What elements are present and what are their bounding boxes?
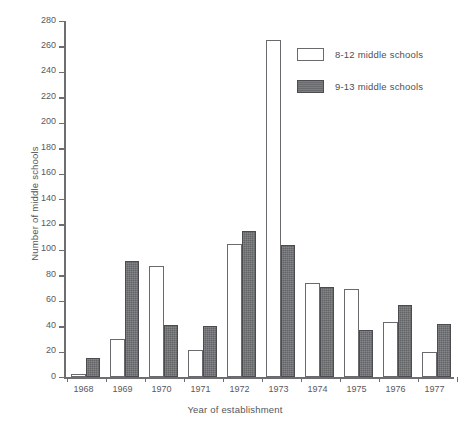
x-axis-label-1974: 1974 <box>298 384 337 394</box>
y-tick-160: 160 <box>59 174 64 175</box>
bar-1971-series2 <box>203 326 218 377</box>
bar-1976-series1 <box>383 322 398 377</box>
x-axis-label-1971: 1971 <box>181 384 220 394</box>
y-tick-220: 220 <box>59 97 64 98</box>
legend-label-8-12: 8-12 middle schools <box>335 49 423 60</box>
bar-1969-series2 <box>125 261 140 377</box>
y-tick-260: 260 <box>59 46 64 47</box>
y-tick-200: 200 <box>59 123 64 124</box>
bar-1973-series1 <box>266 40 281 377</box>
x-tick-1973 <box>262 377 263 382</box>
bar-1969-series1 <box>110 339 125 377</box>
legend-item-8-12: 8-12 middle schools <box>297 44 423 64</box>
y-tick-120: 120 <box>59 224 64 225</box>
x-tick-1977 <box>418 377 419 382</box>
y-axis-title: Number of middle schools <box>29 114 40 294</box>
y-tick-label-200: 200 <box>41 116 56 126</box>
x-tick-1976 <box>379 377 380 382</box>
bar-1970-series2 <box>164 325 179 377</box>
y-tick-label-20: 20 <box>46 345 56 355</box>
y-tick-40: 40 <box>59 326 64 327</box>
bar-1968-series1 <box>71 374 86 377</box>
y-tick-label-260: 260 <box>41 40 56 50</box>
bar-group-1969 <box>110 21 139 377</box>
y-tick-label-40: 40 <box>46 320 56 330</box>
y-tick-280: 280 <box>59 21 64 22</box>
y-tick-label-100: 100 <box>41 243 56 253</box>
x-tick-1975 <box>340 377 341 382</box>
x-tick-1971 <box>184 377 185 382</box>
x-tick-end <box>457 377 458 382</box>
x-axis-title: Year of establishment <box>0 404 470 415</box>
bar-group-1977 <box>422 21 451 377</box>
x-axis-label-1975: 1975 <box>337 384 376 394</box>
y-tick-label-60: 60 <box>46 294 56 304</box>
x-axis-label-1973: 1973 <box>259 384 298 394</box>
y-tick-label-280: 280 <box>41 15 56 25</box>
x-axis-label-1969: 1969 <box>103 384 142 394</box>
legend-swatch-light-icon <box>297 48 324 61</box>
x-axis-line <box>64 377 454 379</box>
bar-1977-series2 <box>437 324 452 377</box>
bar-group-1970 <box>149 21 178 377</box>
y-tick-label-160: 160 <box>41 167 56 177</box>
bar-group-1968 <box>71 21 100 377</box>
bar-group-1973 <box>266 21 295 377</box>
y-tick-label-120: 120 <box>41 218 56 228</box>
y-tick-label-80: 80 <box>46 269 56 279</box>
bar-1971-series1 <box>188 350 203 377</box>
y-tick-180: 180 <box>59 148 64 149</box>
y-tick-20: 20 <box>59 352 64 353</box>
bar-1974-series1 <box>305 283 320 377</box>
x-tick-1972 <box>223 377 224 382</box>
x-axis-label-1976: 1976 <box>376 384 415 394</box>
y-axis-line <box>64 21 66 378</box>
y-tick-label-140: 140 <box>41 193 56 203</box>
bar-group-1971 <box>188 21 217 377</box>
legend: 8-12 middle schools 9-13 middle schools <box>297 44 423 108</box>
x-axis-label-1970: 1970 <box>142 384 181 394</box>
y-tick-80: 80 <box>59 275 64 276</box>
bar-1968-series2 <box>86 358 101 377</box>
x-tick-1969 <box>106 377 107 382</box>
legend-swatch-dark-icon <box>297 80 324 93</box>
x-tick-1968 <box>67 377 68 382</box>
y-tick-label-240: 240 <box>41 65 56 75</box>
bar-1975-series1 <box>344 289 359 377</box>
legend-item-9-13: 9-13 middle schools <box>297 76 423 96</box>
bar-1973-series2 <box>281 245 296 377</box>
legend-label-9-13: 9-13 middle schools <box>335 81 423 92</box>
x-axis-label-1972: 1972 <box>220 384 259 394</box>
bar-chart: Number of middle schools Year of establi… <box>0 0 470 426</box>
y-tick-140: 140 <box>59 199 64 200</box>
y-tick-label-180: 180 <box>41 142 56 152</box>
bar-1974-series2 <box>320 287 335 377</box>
x-tick-1974 <box>301 377 302 382</box>
y-tick-60: 60 <box>59 301 64 302</box>
y-tick-0: 0 <box>59 377 64 378</box>
bar-1972-series1 <box>227 244 242 378</box>
y-tick-label-220: 220 <box>41 91 56 101</box>
x-axis-label-1968: 1968 <box>64 384 103 394</box>
y-tick-100: 100 <box>59 250 64 251</box>
y-tick-240: 240 <box>59 72 64 73</box>
bar-1972-series2 <box>242 231 257 377</box>
bar-group-1972 <box>227 21 256 377</box>
bar-1977-series1 <box>422 352 437 377</box>
bar-1975-series2 <box>359 330 374 377</box>
x-axis-label-1977: 1977 <box>415 384 454 394</box>
bar-1970-series1 <box>149 266 164 377</box>
bar-1976-series2 <box>398 305 413 377</box>
x-tick-1970 <box>145 377 146 382</box>
y-tick-label-0: 0 <box>51 371 56 381</box>
